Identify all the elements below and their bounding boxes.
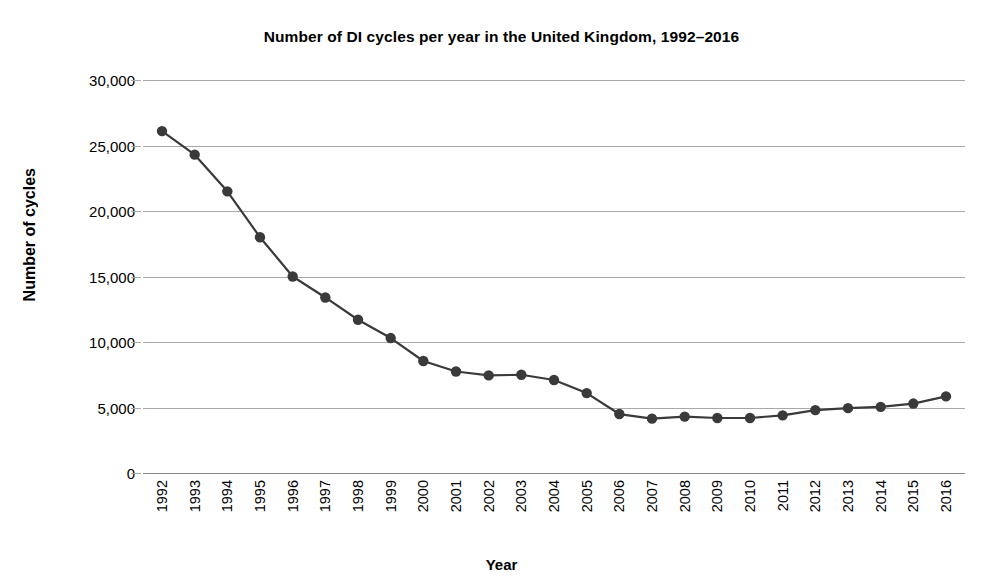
x-tick-label-text: 2000 [415,480,431,512]
x-tick-label-text: 2011 [775,480,791,511]
x-tick-label-text: 2005 [579,480,595,512]
data-point-marker [516,370,526,380]
data-point-marker [679,411,689,421]
data-point-marker [418,356,428,366]
x-tick-label: 2005 [577,480,597,512]
x-tick-label: 2014 [871,480,891,512]
data-point-marker [941,391,951,401]
x-tick-label-text: 2016 [938,480,954,512]
plot-area [143,80,965,473]
y-tick-label: 20,000 [49,203,135,220]
x-tick-label-text: 2014 [873,480,889,512]
y-tick-mark [131,80,141,81]
y-axis-title-label: Number of cycles [21,168,39,301]
data-point-marker [581,388,591,398]
data-point-marker [483,370,493,380]
x-tick-label-text: 2010 [742,480,758,512]
x-tick-label-text: 2008 [677,480,693,512]
x-tick-label-text: 2012 [807,480,823,512]
data-point-marker [745,413,755,423]
x-tick-label: 1993 [185,480,205,512]
data-point-marker [320,292,330,302]
y-tick-label: 10,000 [49,334,135,351]
x-tick-label: 1997 [315,480,335,512]
data-point-marker [875,402,885,412]
x-tick-label-text: 1998 [350,480,366,512]
x-tick-label: 2000 [413,480,433,512]
x-tick-label-text: 2002 [481,480,497,512]
x-tick-label-text: 1999 [383,480,399,512]
x-tick-label-text: 1994 [219,480,235,512]
x-tick-label: 2004 [544,480,564,512]
x-tick-label: 2007 [642,480,662,512]
data-point-marker [647,413,657,423]
y-tick-label: 0 [49,465,135,482]
data-point-marker [614,409,624,419]
x-tick-label: 2001 [446,480,466,512]
x-tick-label-text: 1997 [317,480,333,512]
x-axis-title: Year [0,556,1003,573]
y-tick-mark [131,211,141,212]
y-tick-mark [131,342,141,343]
data-point-marker [777,410,787,420]
x-tick-label: 2016 [936,480,956,512]
chart-container: Number of DI cycles per year in the Unit… [0,0,1003,588]
data-point-marker [287,271,297,281]
x-tick-label: 2012 [805,480,825,512]
data-point-marker [810,405,820,415]
x-axis-baseline [143,473,965,474]
x-tick-label-text: 2003 [513,480,529,512]
x-tick-label: 2006 [609,480,629,512]
data-point-marker [712,413,722,423]
x-tick-label-text: 2009 [709,480,725,512]
y-tick-mark [131,473,141,474]
data-point-marker [157,126,167,136]
x-tick-label: 1998 [348,480,368,512]
y-tick-label: 5,000 [49,399,135,416]
x-tick-label: 1994 [217,480,237,512]
y-tick-label: 30,000 [49,72,135,89]
x-tick-label: 1999 [381,480,401,512]
x-tick-label-text: 2007 [644,480,660,512]
x-tick-label: 1996 [283,480,303,512]
data-series-line [143,80,965,473]
data-point-marker [385,333,395,343]
x-tick-label: 2015 [903,480,923,512]
data-point-marker [255,232,265,242]
y-tick-mark [131,277,141,278]
y-axis-tick-labels: 05,00010,00015,00020,00025,00030,000 [40,80,135,473]
x-tick-label-text: 2004 [546,480,562,512]
x-tick-label: 2003 [511,480,531,512]
y-tick-mark [131,408,141,409]
data-point-marker [222,186,232,196]
y-tick-label: 25,000 [49,137,135,154]
x-tick-label: 2013 [838,480,858,512]
data-point-marker [843,403,853,413]
x-tick-label-text: 2001 [448,480,464,512]
chart-title: Number of DI cycles per year in the Unit… [0,28,1003,46]
data-point-marker [189,149,199,159]
x-tick-label-text: 2015 [905,480,921,512]
x-tick-label-text: 2006 [611,480,627,512]
x-tick-label-text: 1996 [285,480,301,512]
data-point-marker [353,315,363,325]
data-point-marker [451,366,461,376]
x-tick-label: 2010 [740,480,760,512]
x-tick-label-text: 1992 [154,480,170,512]
x-tick-label-text: 2013 [840,480,856,512]
data-point-marker [549,375,559,385]
x-tick-label-text: 1995 [252,480,268,512]
x-tick-label: 1995 [250,480,270,512]
x-tick-label: 2002 [479,480,499,512]
x-tick-label: 2008 [675,480,695,512]
x-tick-label: 2009 [707,480,727,512]
x-tick-label-text: 1993 [187,480,203,512]
y-tick-label: 15,000 [49,268,135,285]
y-tick-mark [131,146,141,147]
data-point-marker [908,398,918,408]
x-tick-label: 1992 [152,480,172,512]
x-tick-label: 2011 [773,480,793,511]
